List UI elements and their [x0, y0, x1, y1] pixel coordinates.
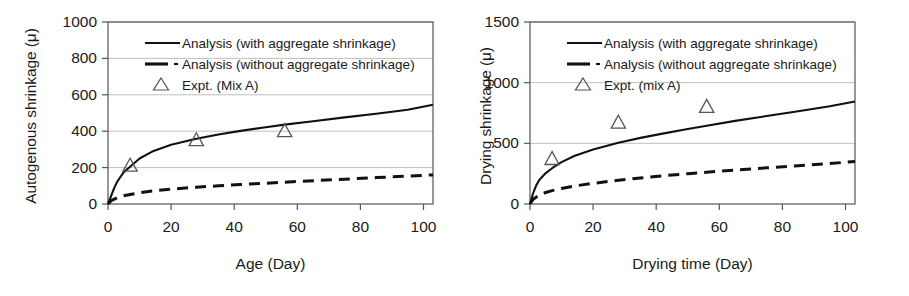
x-tick-label: 20 [162, 218, 180, 235]
plot-area-autogenous: 0 200 400 600 800 1000 0 20 40 60 80 100… [0, 0, 455, 296]
x-tick-label: 40 [648, 218, 666, 235]
x-tick-label: 60 [289, 218, 307, 235]
y-tick-marks [524, 22, 530, 204]
chart-panel-drying-shrinkage: Drying shrinkage (μ) [455, 0, 909, 296]
x-tick-marks [108, 204, 424, 210]
x-tick-label: 0 [104, 218, 113, 235]
data-marker-open-triangle [700, 99, 714, 112]
y-tick-label: 0 [88, 195, 97, 212]
y-tick-label: 1500 [485, 13, 520, 30]
x-axis-title: Drying time (Day) [530, 255, 855, 273]
x-axis-title: Age (Day) [108, 255, 433, 273]
legend-label: Analysis (without aggregate shrinkage) [604, 57, 837, 72]
y-tick-label: 1000 [485, 74, 520, 91]
y-tick-label: 1000 [63, 13, 98, 30]
y-tick-label: 500 [493, 134, 519, 151]
x-tick-label: 20 [584, 218, 602, 235]
legend-marker-open-triangle [154, 78, 169, 90]
y-tick-label: 400 [71, 122, 97, 139]
x-tick-label: 100 [411, 218, 437, 235]
legend-label: Analysis (with aggregate shrinkage) [182, 36, 396, 51]
x-tick-label: 80 [352, 218, 370, 235]
series-line-dashed [530, 162, 855, 204]
data-marker-open-triangle [123, 158, 137, 171]
legend-marker-open-triangle [576, 78, 591, 90]
series-line-dashed [108, 175, 433, 204]
y-tick-label: 800 [71, 49, 97, 66]
y-tick-label: 200 [71, 159, 97, 176]
legend: Analysis (with aggregate shrinkage) Anal… [567, 36, 837, 93]
x-tick-label: 60 [711, 218, 729, 235]
legend-label: Analysis (without aggregate shrinkage) [182, 57, 415, 72]
x-tick-label: 80 [774, 218, 792, 235]
legend: Analysis (with aggregate shrinkage) Anal… [145, 36, 415, 93]
x-tick-label: 0 [526, 218, 535, 235]
x-tick-label: 100 [833, 218, 859, 235]
y-tick-label: 600 [71, 86, 97, 103]
series-line-solid [530, 101, 855, 204]
data-marker-open-triangle [545, 152, 559, 165]
y-tick-marks [102, 22, 108, 204]
series-line-solid [108, 105, 433, 204]
legend-label: Expt. (Mix A) [182, 78, 259, 93]
x-tick-label: 40 [226, 218, 244, 235]
legend-label: Expt. (mix A) [604, 78, 681, 93]
series-layer-0 [108, 105, 433, 204]
figure-row: Autogenous shrinkage (μ) [0, 0, 909, 296]
y-tick-label: 0 [510, 195, 519, 212]
x-tick-marks [530, 204, 846, 210]
plot-area-drying: 0 500 1000 1500 0 20 40 60 80 100 Analys… [455, 0, 909, 296]
legend-label: Analysis (with aggregate shrinkage) [604, 36, 818, 51]
chart-panel-autogenous-shrinkage: Autogenous shrinkage (μ) [0, 0, 455, 296]
series-layer-1 [530, 99, 855, 204]
data-marker-open-triangle [611, 115, 625, 128]
